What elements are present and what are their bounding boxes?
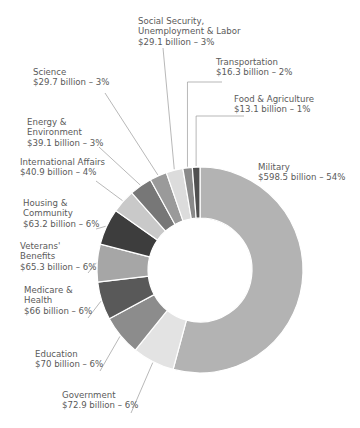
leader-line-food xyxy=(196,116,244,166)
label-military: Military $598.5 billion – 54% xyxy=(258,162,345,183)
leader-line-transportation xyxy=(187,82,222,167)
leader-line-science xyxy=(105,93,158,175)
label-government: Government $72.9 billion – 6% xyxy=(62,390,138,411)
leader-line-energy xyxy=(99,147,140,185)
label-veterans: Veterans' Benefits $65.3 billion – 6% xyxy=(20,241,96,272)
label-housing: Housing & Community $63.2 billion – 6% xyxy=(23,198,99,229)
label-international: International Affairs $40.9 billion – 4% xyxy=(20,157,105,178)
label-food: Food & Agriculture $13.1 billion – 1% xyxy=(234,94,314,115)
donut-chart: Social Security, Unemployment & Labor $2… xyxy=(0,0,360,428)
label-science: Science $29.7 billion – 3% xyxy=(33,67,109,88)
label-education: Education $70 billion – 6% xyxy=(35,349,103,370)
leader-line-international xyxy=(96,181,123,201)
label-medicare: Medicare & Health $66 billion – 6% xyxy=(24,285,92,316)
label-energy: Energy & Environment $39.1 billion – 3% xyxy=(27,117,103,148)
leader-line-social-security xyxy=(163,48,174,169)
label-transportation: Transportation $16.3 billion – 2% xyxy=(216,57,292,78)
label-social-security: Social Security, Unemployment & Labor $2… xyxy=(138,16,241,47)
